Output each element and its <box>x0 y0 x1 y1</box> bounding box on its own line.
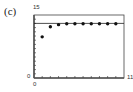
data-point <box>98 22 101 25</box>
data-point <box>81 22 84 25</box>
data-point <box>65 22 68 25</box>
data-point <box>40 35 43 38</box>
data-point <box>106 22 109 25</box>
data-point <box>114 22 117 25</box>
data-point <box>57 23 60 26</box>
data-point <box>49 25 52 28</box>
plot-frame <box>34 15 124 78</box>
scatter-plot <box>0 0 133 92</box>
data-point <box>90 22 93 25</box>
data-point <box>73 22 76 25</box>
